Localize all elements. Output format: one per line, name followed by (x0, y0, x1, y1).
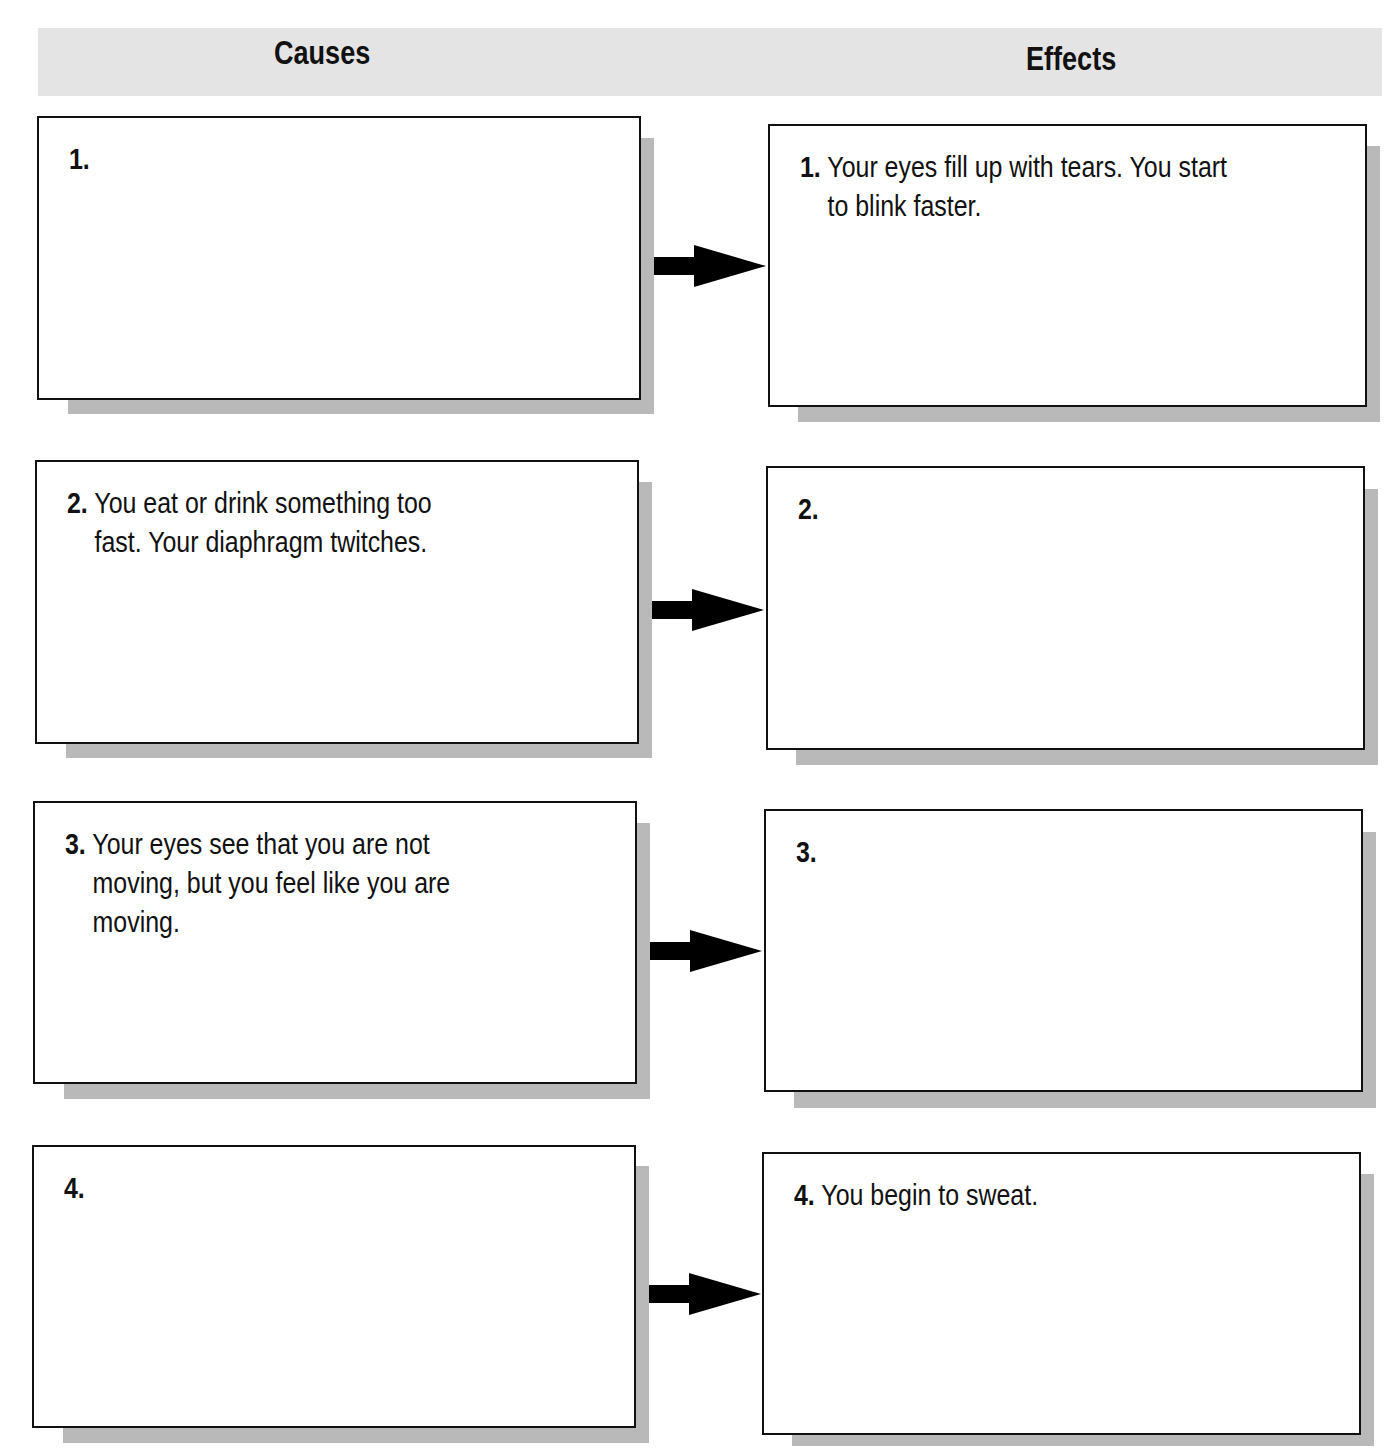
arrow-right-icon (654, 245, 766, 287)
effect-box-1[interactable]: 1. Your eyes fill up with tears. You sta… (768, 124, 1367, 407)
cause-1-number: 1. (69, 143, 90, 175)
effects-column-title: Effects (1026, 40, 1116, 78)
effect-4-number: 4. (794, 1179, 815, 1211)
arrow-right-icon (649, 1273, 761, 1315)
cause-box-3[interactable]: 3. Your eyes see that you are not moving… (33, 801, 637, 1084)
cause-box-2[interactable]: 2. You eat or drink something too fast. … (35, 460, 639, 744)
effect-4-text: 4. You begin to sweat. (794, 1176, 1399, 1215)
cause-1-text: 1. (69, 140, 688, 179)
effect-2-text: 2. (798, 490, 1399, 529)
cause-4-number: 4. (64, 1172, 85, 1204)
causes-column-title: Causes (274, 34, 370, 72)
effect-3-text: 3. (796, 833, 1399, 872)
effect-box-2[interactable]: 2. (766, 466, 1365, 750)
cause-2-number: 2. (67, 487, 88, 519)
effect-3-number: 3. (796, 836, 817, 868)
cause-box-1[interactable]: 1. (37, 116, 641, 400)
effect-box-4[interactable]: 4. You begin to sweat. (762, 1152, 1361, 1435)
effect-1-number: 1. (800, 151, 821, 183)
effect-box-3[interactable]: 3. (764, 809, 1363, 1092)
cause-2-text: 2. You eat or drink something too fast. … (67, 484, 686, 562)
cause-4-text: 4. (64, 1169, 683, 1208)
effect-2-number: 2. (798, 493, 819, 525)
cause-3-text: 3. Your eyes see that you are not moving… (65, 825, 684, 942)
cause-box-4[interactable]: 4. (32, 1145, 636, 1428)
cause-3-number: 3. (65, 828, 86, 860)
effect-1-text: 1. Your eyes fill up with tears. You sta… (800, 148, 1399, 226)
arrow-right-icon (652, 589, 764, 631)
arrow-right-icon (650, 930, 762, 972)
column-header-band (38, 28, 1382, 96)
